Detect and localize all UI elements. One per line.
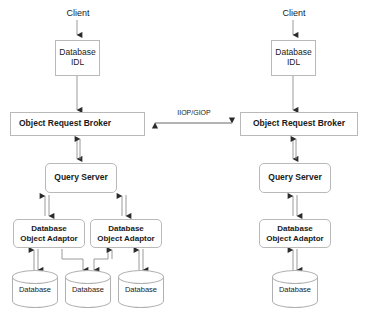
left-qs-label: Query Server [54,173,107,183]
left-client-label: Client [48,8,108,18]
right-database-cylinder-1[interactable]: Database [272,270,318,308]
left-orb-label: Object Request Broker [19,119,111,129]
left-database-cylinder-2[interactable]: Database [65,270,111,308]
right-client-label: Client [264,8,324,18]
right-database-object-adaptor-1[interactable]: Database Object Adaptor [259,219,331,248]
architecture-diagram: Client Database IDL Object Request Broke… [0,0,367,311]
right-ad1-line1: Database [277,224,313,233]
left-database-idl-box[interactable]: Database IDL [55,40,100,76]
left-database-object-adaptor-2[interactable]: Database Object Adaptor [90,219,162,248]
left-database-object-adaptor-1[interactable]: Database Object Adaptor [13,219,85,248]
right-database-idl-box[interactable]: Database IDL [271,40,316,76]
right-object-request-broker-box[interactable]: Object Request Broker [240,112,358,136]
left-ad1-line1: Database [31,224,67,233]
left-object-request-broker-box[interactable]: Object Request Broker [10,112,145,136]
left-ad2-line1: Database [108,224,144,233]
left-db2-label: Database [65,270,111,308]
right-orb-label: Object Request Broker [253,119,345,129]
right-idl-line2: IDL [287,58,300,68]
left-database-cylinder-3[interactable]: Database [118,270,164,308]
left-database-cylinder-1[interactable]: Database [12,270,58,308]
right-db1-label: Database [272,270,318,308]
right-query-server-box[interactable]: Query Server [259,163,331,193]
left-query-server-box[interactable]: Query Server [45,163,117,193]
iiop-giop-label: IIOP/GIOP [160,109,228,116]
left-ad1-line2: Object Adaptor [20,234,77,243]
edge-left-ad2-to-db2-bracket [94,249,108,270]
left-db3-label: Database [118,270,164,308]
right-qs-label: Query Server [268,173,321,183]
left-idl-line2: IDL [71,58,84,68]
edge-left-ad1-to-db2-bracket [62,249,83,270]
left-ad2-line2: Object Adaptor [97,234,154,243]
left-db1-label: Database [12,270,58,308]
right-ad1-line2: Object Adaptor [266,234,323,243]
